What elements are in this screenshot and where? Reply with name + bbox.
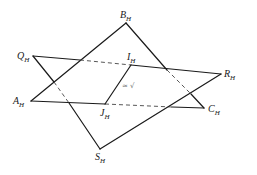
edge-q-s-upper bbox=[33, 56, 54, 82]
label-i: IH bbox=[126, 51, 136, 65]
edge-i-r bbox=[131, 65, 221, 74]
edge-j-c-hidden bbox=[105, 104, 172, 107]
edge-j-c-visible bbox=[172, 107, 204, 108]
edge-a-b bbox=[31, 23, 126, 101]
intersecting-planes-diagram: BH QH AH IH JH RH CH SH ≈ √ bbox=[0, 0, 257, 175]
annotation-mark: ≈ √ bbox=[122, 82, 135, 90]
edge-q-s-lower bbox=[69, 103, 100, 149]
label-b: BH bbox=[120, 9, 132, 23]
edge-q-i-hidden bbox=[80, 60, 131, 65]
plane-abc bbox=[31, 23, 204, 108]
edge-q-r-start bbox=[33, 56, 80, 60]
edge-b-c-lower bbox=[191, 94, 204, 108]
label-r: RH bbox=[223, 68, 236, 82]
edge-b-c-hidden bbox=[167, 70, 191, 94]
label-a: AH bbox=[12, 95, 25, 109]
label-q: QH bbox=[17, 50, 30, 64]
label-s: SH bbox=[95, 151, 106, 165]
edge-q-s-hidden bbox=[54, 82, 69, 103]
label-c: CH bbox=[208, 103, 221, 117]
label-j: JH bbox=[100, 107, 110, 121]
